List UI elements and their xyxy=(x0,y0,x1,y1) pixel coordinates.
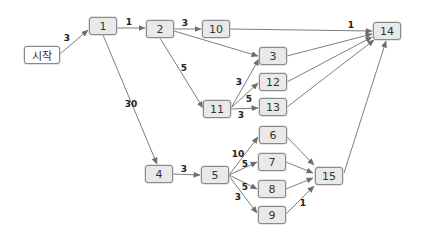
edge-4-to-5 xyxy=(173,174,200,175)
edge-11-to-13 xyxy=(231,108,258,109)
node-10: 10 xyxy=(202,20,230,38)
node-label: 14 xyxy=(380,25,394,38)
node-label: 시작 xyxy=(32,47,52,63)
node-9: 9 xyxy=(258,206,286,224)
node-label: 10 xyxy=(209,23,223,36)
edge-3-to-14 xyxy=(287,34,372,56)
edge-label-11-to-12: 5 xyxy=(246,94,252,104)
node-label: 7 xyxy=(269,156,276,169)
node-label: 3 xyxy=(270,50,277,63)
node-2: 2 xyxy=(146,20,174,38)
edge-label-10-to-14: 1 xyxy=(348,20,354,30)
edge-label-5-to-7: 5 xyxy=(242,159,248,169)
node-label: 4 xyxy=(156,168,163,181)
node-6: 6 xyxy=(259,126,287,144)
edge-12-to-14 xyxy=(287,37,372,82)
edge-label-9-to-15: 1 xyxy=(300,198,306,208)
node-13: 13 xyxy=(259,98,287,116)
node-14: 14 xyxy=(373,22,401,40)
node-label: 8 xyxy=(269,183,276,196)
node-11: 11 xyxy=(203,100,231,118)
edge-label-11-to-13: 3 xyxy=(238,110,244,120)
node-label: 2 xyxy=(157,23,164,36)
node-label: 12 xyxy=(266,76,280,89)
network-diagram: 시작121014312131167894515 3130351353310553… xyxy=(0,0,423,238)
node-label: 1 xyxy=(100,20,107,33)
node-label: 15 xyxy=(322,170,336,183)
edge-label-start-to-1: 3 xyxy=(64,33,70,43)
edge-label-5-to-8: 5 xyxy=(242,182,248,192)
node-7: 7 xyxy=(258,153,286,171)
node-15: 15 xyxy=(315,167,343,185)
node-12: 12 xyxy=(259,73,287,91)
edge-label-2-to-10: 3 xyxy=(182,18,188,28)
edge-label-5-to-9: 3 xyxy=(235,192,241,202)
edge-label-1-to-2: 1 xyxy=(126,17,132,27)
edge-6-to-15 xyxy=(287,137,314,165)
edge-13-to-14 xyxy=(287,40,374,107)
edge-label-5-to-6: 10 xyxy=(232,149,245,159)
node-1: 1 xyxy=(89,17,117,35)
node-label: 13 xyxy=(266,101,280,114)
edge-label-1-to-4: 30 xyxy=(125,99,138,109)
edge-label-2-to-11: 5 xyxy=(181,63,187,73)
node-start: 시작 xyxy=(24,46,60,64)
edge-label-11-to-3: 3 xyxy=(236,77,242,87)
node-label: 5 xyxy=(212,169,219,182)
edge-15-to-14 xyxy=(344,41,386,173)
node-label: 6 xyxy=(270,129,277,142)
node-4: 4 xyxy=(145,165,173,183)
edge-8-to-15 xyxy=(286,178,313,189)
edge-2-to-11 xyxy=(160,38,203,108)
node-3: 3 xyxy=(259,47,287,65)
node-5: 5 xyxy=(201,166,229,184)
edge-7-to-15 xyxy=(286,162,313,173)
node-8: 8 xyxy=(258,180,286,198)
node-label: 9 xyxy=(269,209,276,222)
edge-label-4-to-5: 3 xyxy=(181,164,187,174)
node-label: 11 xyxy=(210,103,224,116)
